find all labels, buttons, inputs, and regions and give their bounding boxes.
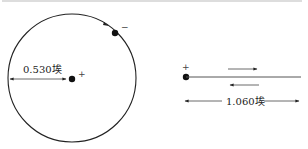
electron-sign: − xyxy=(121,22,129,32)
radius-label: 0.530埃 xyxy=(23,63,62,75)
nucleus-sign: + xyxy=(78,69,86,79)
electron-dot xyxy=(112,30,118,36)
diagram-canvas: − + 0.530埃 + 1.060埃 xyxy=(0,0,308,149)
bohr-orbit-diagram: − + 0.530埃 xyxy=(8,14,136,142)
linear-ion-diagram: + 1.060埃 xyxy=(182,62,301,107)
orbit-direction-arrow-icon xyxy=(103,22,109,26)
distance-label: 1.060埃 xyxy=(226,95,265,107)
cut-off-top-text xyxy=(2,0,302,2)
linear-nucleus-sign: + xyxy=(182,62,190,72)
nucleus-dot xyxy=(69,76,75,82)
